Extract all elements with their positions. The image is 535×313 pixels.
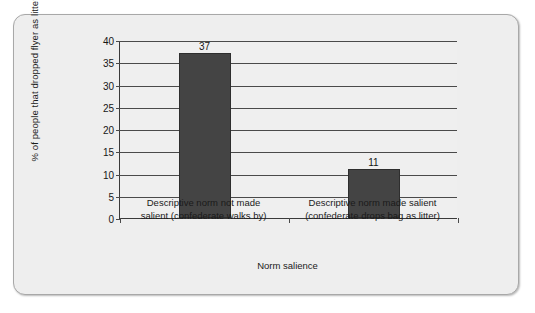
y-tick-mark (116, 108, 120, 109)
y-tick-mark (116, 130, 120, 131)
bar-value-label: 11 (368, 157, 378, 168)
gridline (120, 63, 457, 64)
y-tick-mark (116, 63, 120, 64)
bar: 37 (179, 53, 231, 218)
y-tick-label: 0 (108, 214, 114, 225)
gridline (120, 175, 457, 176)
y-tick-mark (116, 86, 120, 87)
y-tick-label: 20 (103, 125, 114, 136)
y-tick-label: 5 (108, 191, 114, 202)
gridline (120, 108, 457, 109)
x-category-label: Descriptive norm not made salient (confe… (119, 197, 288, 222)
y-tick-label: 10 (103, 169, 114, 180)
y-tick-label: 15 (103, 147, 114, 158)
gridline (120, 130, 457, 131)
plot-area: 0510152025303540 3711 (119, 41, 457, 219)
y-tick-label: 30 (103, 80, 114, 91)
y-axis-title: % of people that dropped flyer as litter (29, 0, 40, 173)
y-tick-label: 35 (103, 58, 114, 69)
bar-value-label: 37 (199, 41, 210, 52)
y-tick-label: 40 (103, 36, 114, 47)
y-tick-mark (116, 41, 120, 42)
y-tick-label: 25 (103, 102, 114, 113)
y-tick-mark (116, 175, 120, 176)
x-axis-title: Norm salience (119, 260, 456, 271)
y-tick-mark (116, 152, 120, 153)
x-tick-mark (458, 218, 459, 223)
chart-panel: % of people that dropped flyer as litter… (13, 14, 519, 295)
gridline (120, 41, 457, 42)
x-category-label: Descriptive norm made salient (confedera… (288, 197, 457, 222)
gridline (120, 86, 457, 87)
gridline (120, 152, 457, 153)
